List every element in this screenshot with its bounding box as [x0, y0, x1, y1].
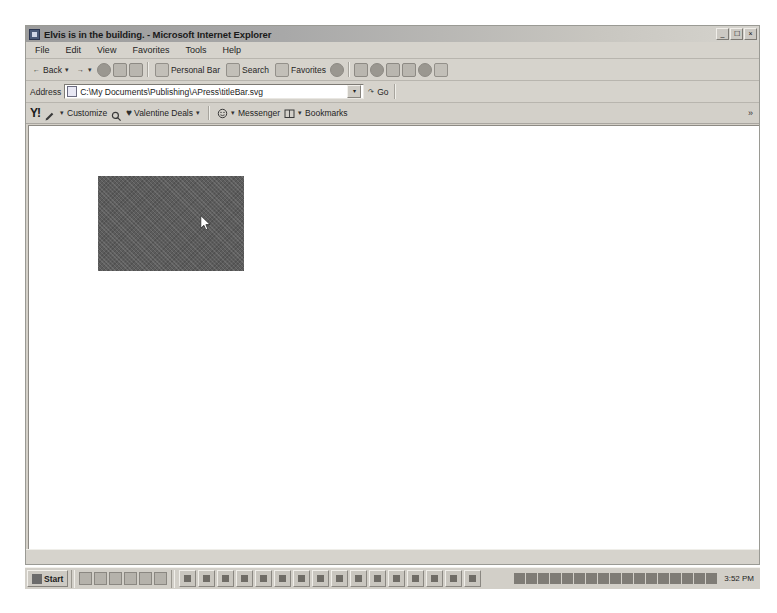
address-bar: Address C:\My Documents\Publishing\APres…: [26, 81, 759, 103]
menu-item-view[interactable]: View: [94, 44, 119, 56]
menu-item-edit[interactable]: Edit: [63, 44, 85, 56]
task-button[interactable]: [331, 570, 348, 587]
show-desktop-icon[interactable]: [79, 572, 92, 585]
media-player-icon[interactable]: [124, 572, 137, 585]
menu-item-favorites[interactable]: Favorites: [129, 44, 172, 56]
yahoo-messenger-button[interactable]: ▾ Messenger: [217, 108, 280, 119]
refresh-icon[interactable]: [113, 63, 127, 77]
customize-dropdown-icon: ▾: [60, 109, 64, 117]
customize-button[interactable]: ▾ Customize: [59, 108, 107, 118]
tray-icon[interactable]: [670, 573, 681, 584]
search-icon[interactable]: [111, 108, 122, 119]
internet-explorer-icon[interactable]: [109, 572, 122, 585]
personal-bar-button[interactable]: Personal Bar: [153, 62, 222, 78]
menu-item-tools[interactable]: Tools: [182, 44, 209, 56]
task-button[interactable]: [312, 570, 329, 587]
valentine-dropdown-icon[interactable]: ▾: [196, 109, 200, 117]
tray-icon[interactable]: [598, 573, 609, 584]
task-button[interactable]: [350, 570, 367, 587]
toolbar-overflow-icon[interactable]: »: [748, 108, 753, 118]
print-icon[interactable]: [370, 63, 384, 77]
clock[interactable]: 3:52 PM: [724, 574, 754, 583]
document-icon: [67, 86, 77, 97]
back-dropdown-icon[interactable]: ▾: [65, 66, 69, 74]
personal-bar-icon: [155, 63, 169, 77]
mail-icon[interactable]: [354, 63, 368, 77]
tray-icon[interactable]: [694, 573, 705, 584]
task-button[interactable]: [274, 570, 291, 587]
heart-icon: ♥: [126, 108, 132, 118]
tray-icon[interactable]: [586, 573, 597, 584]
realplayer-icon[interactable]: [434, 63, 448, 77]
back-label: Back: [43, 65, 62, 75]
task-button[interactable]: [445, 570, 462, 587]
favorites-label: Favorites: [291, 65, 326, 75]
internet-explorer-window: Elvis is in the building. - Microsoft In…: [25, 25, 760, 565]
history-icon[interactable]: [330, 63, 344, 77]
task-button[interactable]: [217, 570, 234, 587]
task-button[interactable]: [426, 570, 443, 587]
tray-icon[interactable]: [682, 573, 693, 584]
personal-bar-label: Personal Bar: [171, 65, 220, 75]
status-bar: [26, 549, 759, 564]
tray-icon[interactable]: [574, 573, 585, 584]
task-button[interactable]: [369, 570, 386, 587]
task-button[interactable]: [255, 570, 272, 587]
forward-dropdown-icon[interactable]: ▾: [88, 66, 92, 74]
task-button[interactable]: [198, 570, 215, 587]
task-button[interactable]: [236, 570, 253, 587]
svg-rectangle: [98, 176, 244, 271]
address-input[interactable]: C:\My Documents\Publishing\APress\titleB…: [64, 84, 364, 99]
start-button[interactable]: Start: [27, 570, 68, 587]
yahoo-logo[interactable]: Y!: [30, 106, 40, 120]
messenger-dropdown-icon: ▾: [231, 109, 235, 117]
address-value: C:\My Documents\Publishing\APress\titleB…: [80, 87, 347, 97]
tray-icon[interactable]: [610, 573, 621, 584]
restore-button[interactable]: ☐: [730, 28, 743, 40]
forward-arrow-icon: →: [77, 66, 84, 73]
tray-icon[interactable]: [634, 573, 645, 584]
discuss-icon[interactable]: [402, 63, 416, 77]
tray-icon[interactable]: [514, 573, 525, 584]
windows-taskbar: Start: [25, 567, 760, 589]
minimize-button[interactable]: _: [716, 28, 729, 40]
task-button[interactable]: [464, 570, 481, 587]
tray-icon[interactable]: [562, 573, 573, 584]
tray-icon[interactable]: [526, 573, 537, 584]
address-separator: [394, 84, 396, 99]
stop-icon[interactable]: [97, 63, 111, 77]
forward-button[interactable]: → ▾: [74, 65, 95, 75]
close-button[interactable]: ×: [744, 28, 757, 40]
task-button[interactable]: [179, 570, 196, 587]
messenger-icon[interactable]: [418, 63, 432, 77]
pencil-icon[interactable]: [44, 108, 55, 119]
search-icon: [226, 63, 240, 77]
yahoo-toolbar: Y! ▾ Customize ♥ Valentine Deals ▾: [26, 103, 759, 124]
menu-item-help[interactable]: Help: [219, 44, 244, 56]
tray-icon[interactable]: [706, 573, 717, 584]
menu-item-file[interactable]: File: [32, 44, 53, 56]
office-icon[interactable]: [154, 572, 167, 585]
search-button[interactable]: Search: [224, 62, 271, 78]
valentine-deals-label: Valentine Deals: [134, 108, 193, 118]
tray-icon[interactable]: [622, 573, 633, 584]
chevron-down-icon[interactable]: ▾: [347, 85, 361, 98]
valentine-deals-button[interactable]: ♥ Valentine Deals ▾: [126, 108, 201, 118]
task-button[interactable]: [388, 570, 405, 587]
tray-icon[interactable]: [550, 573, 561, 584]
tray-icon[interactable]: [646, 573, 657, 584]
yahoo-bookmarks-button[interactable]: ▾ Bookmarks: [284, 108, 348, 119]
back-button[interactable]: ← Back ▾: [30, 64, 72, 76]
window-controls: _ ☐ ×: [716, 28, 757, 40]
edit-icon[interactable]: [386, 63, 400, 77]
realplayer-icon[interactable]: [139, 572, 152, 585]
title-bar[interactable]: Elvis is in the building. - Microsoft In…: [26, 26, 759, 42]
outlook-express-icon[interactable]: [94, 572, 107, 585]
tray-icon[interactable]: [538, 573, 549, 584]
task-button[interactable]: [293, 570, 310, 587]
favorites-button[interactable]: Favorites: [273, 62, 328, 78]
go-button[interactable]: ↷ Go: [367, 87, 388, 97]
home-icon[interactable]: [129, 63, 143, 77]
tray-icon[interactable]: [658, 573, 669, 584]
task-button[interactable]: [407, 570, 424, 587]
